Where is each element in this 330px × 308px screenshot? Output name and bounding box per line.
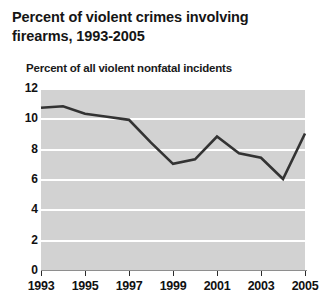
x-axis-tick-mark [261,271,262,276]
x-axis-tick-mark [129,271,130,276]
x-axis-tick-mark [217,271,218,276]
x-axis-tick-mark [173,271,174,276]
x-axis-tick-label: 2005 [281,279,329,293]
x-axis-tick-label: 1993 [17,279,65,293]
x-axis-tick-label: 2003 [237,279,285,293]
x-axis-tick-mark [85,271,86,276]
x-axis-tick-label: 2001 [193,279,241,293]
chart-figure: Percent of violent crimes involving fire… [0,0,330,308]
x-axis-tick-label: 1995 [61,279,109,293]
x-axis-tick-mark [41,271,42,276]
x-axis-tick-label: 1997 [105,279,153,293]
x-axis-tick-label: 1999 [149,279,197,293]
x-axis-tick-mark [305,271,306,276]
series-line-firearm-percent [41,106,305,179]
data-series-layer [0,0,330,308]
